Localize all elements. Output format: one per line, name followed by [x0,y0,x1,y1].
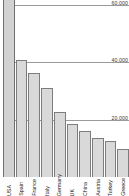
bar-chart: 60,000 40,000 20,000 [0,0,129,196]
category-label-germany: Germany [56,173,63,196]
bar-italy[interactable] [41,88,53,177]
bar-slot-usa [3,0,15,177]
bar-slot-turkey [105,0,117,177]
bar-spain[interactable] [16,60,28,177]
category-label-turkey: Turkey [107,179,114,196]
bar-slot-china [79,0,91,177]
bar-slot-spain [16,0,28,177]
category-axis: USA Spain France Italy Germany UK China … [3,174,129,196]
category-label-spain: Spain [18,181,25,196]
category-label-china: China [82,181,89,196]
category-slot-turkey: Turkey [105,174,117,196]
category-label-austria: Austria [95,178,102,196]
bar-slot-austria [92,0,104,177]
bar-uk[interactable] [67,124,79,177]
bar-greece[interactable] [117,149,129,177]
bar-slot-germany [54,0,66,177]
category-label-uk: UK [69,188,76,196]
category-slot-germany: Germany [54,174,66,196]
category-slot-uk: UK [67,174,79,196]
bar-usa[interactable] [3,0,15,177]
bar-austria[interactable] [92,138,104,177]
category-slot-italy: Italy [41,174,53,196]
category-slot-austria: Austria [92,174,104,196]
category-slot-france: France [28,174,40,196]
bar-slot-italy [41,0,53,177]
bar-china[interactable] [79,131,91,177]
category-label-france: France [31,178,38,196]
category-label-italy: Italy [44,185,51,196]
bar-france[interactable] [28,73,40,177]
bar-slot-uk [67,0,79,177]
category-label-greece: Greece [120,177,127,196]
bar-series [3,0,129,177]
bar-turkey[interactable] [105,141,117,177]
bar-slot-greece [117,0,129,177]
plot-area: 60,000 40,000 20,000 [0,0,129,196]
bar-slot-france [28,0,40,177]
category-label-usa: USA [6,184,13,196]
bar-germany[interactable] [54,112,66,177]
category-slot-china: China [79,174,91,196]
category-slot-spain: Spain [16,174,28,196]
category-slot-usa: USA [3,174,15,196]
category-slot-greece: Greece [117,174,129,196]
